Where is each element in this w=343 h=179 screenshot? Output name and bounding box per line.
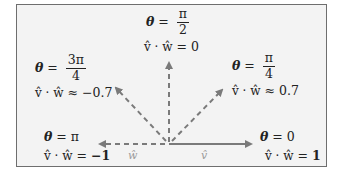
annotation-pi-over-4: θ = π 4 v̂ · ŵ ≈ 0.7 xyxy=(232,52,299,98)
theta-symbol: θ xyxy=(260,131,268,144)
fraction: 3π 4 xyxy=(66,54,86,82)
annotation-pi: θ = π v̂ · ŵ = −1 xyxy=(44,131,110,162)
dot-product-value: 1 xyxy=(312,150,321,163)
arrow-pi-over-4 xyxy=(172,90,222,141)
annotation-3pi-over-4: θ = 3π 4 v̂ · ŵ ≈ −0.7 xyxy=(35,54,112,100)
dot-product-expr: v̂ · ŵ xyxy=(44,150,73,162)
dot-product-angle-diagram: v̂ ŵ θ = π 2 v̂ · ŵ = 0 θ = 3π 4 v̂ · xyxy=(0,0,343,179)
arrow-3pi-over-4 xyxy=(116,88,166,141)
fraction: π 4 xyxy=(263,52,275,80)
theta-symbol: θ xyxy=(44,131,52,144)
dot-product-expr: v̂ · ŵ xyxy=(232,85,261,97)
theta-symbol: θ xyxy=(146,16,154,29)
v-hat-label: v̂ xyxy=(201,149,207,162)
dot-product-value: −1 xyxy=(91,150,110,163)
theta-symbol: θ xyxy=(232,60,240,73)
dot-product-value: 0 xyxy=(191,41,199,54)
fraction: π 2 xyxy=(177,8,189,36)
w-hat-label: ŵ xyxy=(128,149,137,162)
theta-symbol: θ xyxy=(35,62,43,75)
annotation-zero: θ = 0 v̂ · ŵ = 1 xyxy=(259,131,321,162)
annotation-pi-over-2: θ = π 2 v̂ · ŵ = 0 xyxy=(146,8,199,54)
dot-product-value: 0.7 xyxy=(279,85,299,98)
dot-product-expr: v̂ · ŵ xyxy=(265,150,294,162)
dot-product-expr: v̂ · ŵ xyxy=(35,87,64,99)
dot-product-expr: v̂ · ŵ xyxy=(144,41,173,53)
dot-product-value: −0.7 xyxy=(82,87,112,100)
